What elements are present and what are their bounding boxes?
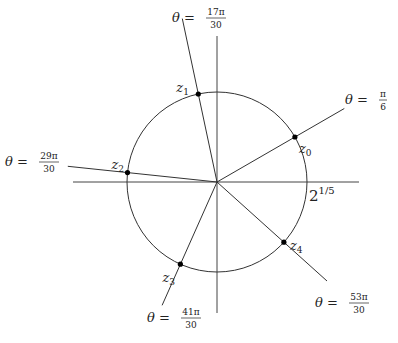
root-point-z3 bbox=[178, 262, 183, 267]
svg-text:=: = bbox=[184, 10, 195, 25]
root-point-z0 bbox=[292, 134, 297, 139]
root-label-z3: z3 bbox=[161, 270, 175, 287]
angle-label-2: θ = 29π30 bbox=[5, 151, 59, 174]
root-label-z2: z2 bbox=[111, 157, 125, 174]
svg-text:30: 30 bbox=[43, 164, 55, 174]
svg-text:π: π bbox=[380, 89, 386, 99]
ray-0 bbox=[217, 109, 344, 183]
svg-text:=: = bbox=[159, 310, 170, 325]
svg-text:17π: 17π bbox=[207, 7, 224, 17]
svg-text:53π: 53π bbox=[350, 292, 367, 302]
svg-text:θ: θ bbox=[172, 10, 180, 25]
svg-text:θ: θ bbox=[5, 154, 13, 169]
root-rays bbox=[68, 19, 345, 306]
root-point-z4 bbox=[281, 240, 286, 245]
svg-text:θ: θ bbox=[147, 310, 155, 325]
angle-label-1: θ = 17π30 bbox=[172, 7, 226, 30]
angle-label-3: θ = 41π30 bbox=[147, 307, 201, 330]
ray-1 bbox=[182, 19, 217, 182]
root-label-z4: z4 bbox=[289, 238, 303, 255]
root-points bbox=[125, 91, 298, 266]
ray-2 bbox=[68, 166, 217, 182]
angle-label-0: θ = π6 bbox=[345, 89, 387, 112]
svg-text:30: 30 bbox=[210, 20, 222, 30]
svg-text:θ: θ bbox=[345, 92, 353, 107]
svg-text:=: = bbox=[357, 92, 368, 107]
svg-text:θ: θ bbox=[315, 295, 323, 310]
svg-text:41π: 41π bbox=[182, 307, 199, 317]
root-label-z1: z1 bbox=[175, 80, 189, 97]
svg-text:30: 30 bbox=[185, 320, 197, 330]
svg-text:=: = bbox=[17, 154, 28, 169]
svg-text:=: = bbox=[327, 295, 338, 310]
root-label-z0: z0 bbox=[298, 141, 312, 158]
angle-label-4: θ = 53π30 bbox=[315, 292, 369, 315]
radius-label: 21/5 bbox=[309, 185, 335, 205]
root-point-z1 bbox=[196, 91, 201, 96]
svg-text:6: 6 bbox=[380, 102, 386, 112]
svg-text:30: 30 bbox=[353, 305, 365, 315]
roots-of-unity-diagram: z0θ = π6z1θ = 17π30z2θ = 29π30z3θ = 41π3… bbox=[0, 0, 398, 343]
labels: z0θ = π6z1θ = 17π30z2θ = 29π30z3θ = 41π3… bbox=[5, 7, 387, 330]
root-point-z2 bbox=[125, 170, 130, 175]
svg-text:29π: 29π bbox=[40, 151, 57, 161]
